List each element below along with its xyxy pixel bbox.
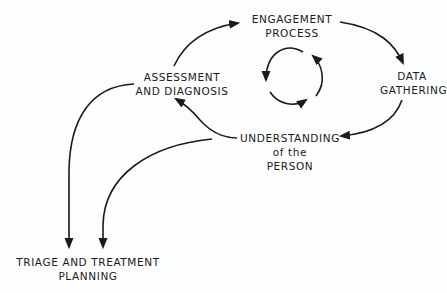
- node-data-gathering: DATA GATHERING: [380, 69, 444, 97]
- node-assessment-diagnosis: ASSESSMENT AND DIAGNOSIS: [134, 70, 230, 98]
- node-triage-treatment-planning: TRIAGE AND TREATMENT PLANNING: [14, 255, 162, 283]
- cycle-arc-top: [266, 48, 303, 80]
- node-label-line: GATHERING: [380, 83, 444, 97]
- node-label-line: ENGAGEMENT: [244, 12, 340, 26]
- arrow-assessment-to-triage: [69, 84, 134, 247]
- node-label-line: PROCESS: [244, 26, 340, 40]
- node-label-line: PLANNING: [14, 269, 162, 283]
- node-label-line: ASSESSMENT: [134, 70, 230, 84]
- arrow-understanding-to-assessment: [176, 99, 237, 138]
- node-label-line: PERSON: [238, 159, 342, 173]
- cycle-arc-right: [313, 56, 322, 96]
- node-label-line: AND DIAGNOSIS: [134, 84, 230, 98]
- node-label-line: DATA: [380, 69, 444, 83]
- diagram-canvas: ENGAGEMENT PROCESS DATA GATHERING UNDERS…: [0, 0, 447, 293]
- arrow-understanding-to-triage: [103, 139, 212, 247]
- arrow-engagement-to-data: [340, 22, 403, 63]
- node-label-line: UNDERSTANDING: [238, 131, 342, 145]
- node-label-line: TRIAGE AND TREATMENT: [14, 255, 162, 269]
- node-label-line: of the: [238, 145, 342, 159]
- arrow-assessment-to-engagement: [174, 23, 238, 66]
- node-engagement-process: ENGAGEMENT PROCESS: [244, 12, 340, 40]
- diagram-arrows: [0, 0, 447, 293]
- arrow-data-to-understanding: [341, 100, 402, 136]
- cycle-arc-bottom: [270, 92, 306, 104]
- node-understanding-person: UNDERSTANDING of the PERSON: [238, 131, 342, 173]
